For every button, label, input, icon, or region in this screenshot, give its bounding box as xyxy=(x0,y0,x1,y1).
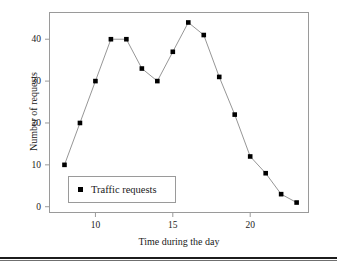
y-axis-title: Number of requests xyxy=(28,32,39,192)
square-marker-icon xyxy=(78,187,83,192)
x-tick-label: 20 xyxy=(245,220,255,230)
legend-item-label: Traffic requests xyxy=(91,184,157,195)
y-tick-label: 0 xyxy=(0,202,41,212)
chart-legend: Traffic requests xyxy=(68,176,176,203)
x-tick-label: 10 xyxy=(91,220,101,230)
x-tick-label: 15 xyxy=(168,220,178,230)
bottom-divider-secondary xyxy=(0,260,337,261)
bottom-divider xyxy=(0,257,337,259)
chart-figure: 010203040 101520 Number of requests Time… xyxy=(0,0,337,266)
x-axis-title: Time during the day xyxy=(49,236,309,247)
x-axis-ticks xyxy=(95,213,250,217)
